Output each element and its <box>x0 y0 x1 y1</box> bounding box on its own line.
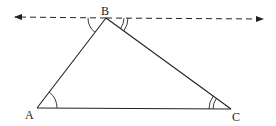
angle-mark-a <box>49 92 57 108</box>
vertex-label-c: C <box>232 110 240 124</box>
side-bc <box>106 18 231 109</box>
triangle-diagram: B A C <box>0 0 276 126</box>
parallel-line <box>15 17 263 19</box>
angle-mark-b-left <box>88 18 95 33</box>
side-ac <box>37 108 231 109</box>
vertex-label-a: A <box>25 108 34 122</box>
triangle-abc <box>37 18 231 109</box>
side-ab <box>37 18 106 108</box>
vertex-label-b: B <box>101 4 109 18</box>
